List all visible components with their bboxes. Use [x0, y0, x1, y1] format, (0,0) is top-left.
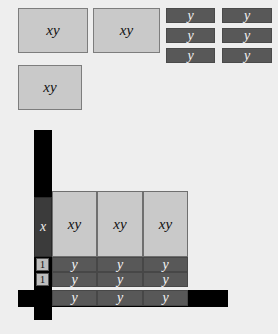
tray-y-strip-4[interactable]: y: [222, 28, 272, 43]
product-row-y-2-cell-3[interactable]: y: [143, 272, 188, 287]
product-row-xy-cell-1[interactable]: xy: [52, 191, 97, 257]
product-row-xy-cell-2[interactable]: xy: [97, 191, 143, 257]
tray-y-strip-3[interactable]: y: [166, 28, 215, 43]
product-row-y-3-cell-3[interactable]: y: [143, 290, 188, 306]
product-row-y-3-cell-2[interactable]: y: [97, 290, 143, 306]
tray-y-strip-5[interactable]: y: [166, 48, 215, 63]
tray-xy-tile-2[interactable]: xy: [93, 8, 160, 53]
algebra-tile-canvas: xyxyxyyyyyyy xyxyxyyyyyyyyyyx11: [0, 0, 278, 334]
tray-y-strip-1[interactable]: y: [166, 8, 215, 23]
tray-xy-tile-1[interactable]: xy: [18, 8, 88, 53]
product-row-y-1-cell-1[interactable]: y: [52, 257, 97, 272]
product-row-y-2-cell-2[interactable]: y: [97, 272, 143, 287]
row-header-one-2[interactable]: 1: [36, 273, 49, 286]
product-row-y-2-cell-1[interactable]: y: [52, 272, 97, 287]
product-row-y-1-cell-3[interactable]: y: [143, 257, 188, 272]
product-row-y-1-cell-2[interactable]: y: [97, 257, 143, 272]
product-row-y-3-cell-1[interactable]: y: [52, 290, 97, 306]
row-header-x[interactable]: x: [34, 197, 52, 257]
tray-y-strip-6[interactable]: y: [222, 48, 272, 63]
row-header-one-1[interactable]: 1: [36, 258, 49, 271]
product-row-xy-cell-3[interactable]: xy: [143, 191, 188, 257]
tray-y-strip-2[interactable]: y: [222, 8, 272, 23]
tray-xy-tile-3[interactable]: xy: [18, 65, 82, 110]
